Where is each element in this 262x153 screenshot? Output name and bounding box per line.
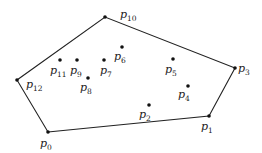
label-p10: p10 [120, 8, 137, 23]
point-p11 [58, 58, 62, 62]
label-subscript: 12 [33, 84, 43, 93]
point-p5 [171, 57, 175, 61]
label-base: p [114, 50, 121, 63]
label-p3: p3 [238, 62, 250, 77]
label-base: p [178, 88, 185, 101]
label-subscript: 8 [87, 87, 92, 96]
label-subscript: 10 [127, 14, 137, 23]
label-base: p [40, 137, 47, 150]
label-subscript: 11 [57, 70, 67, 79]
label-subscript: 6 [121, 56, 126, 65]
label-base: p [139, 108, 146, 121]
label-p6: p6 [114, 50, 126, 65]
point-p6 [120, 45, 124, 49]
point-p8 [86, 76, 90, 80]
label-p8: p8 [80, 81, 92, 96]
label-subscript: 3 [245, 68, 250, 77]
label-subscript: 1 [208, 126, 213, 135]
label-base: p [100, 64, 107, 77]
point-p10 [103, 15, 107, 19]
label-base: p [80, 81, 87, 94]
label-p5: p5 [165, 63, 177, 78]
label-subscript: 7 [107, 70, 112, 79]
label-base: p [26, 78, 33, 91]
label-base: p [238, 62, 245, 75]
point-p9 [75, 58, 79, 62]
label-base: p [201, 120, 208, 133]
label-subscript: 9 [77, 70, 82, 79]
label-subscript: 2 [146, 114, 151, 123]
label-p11: p11 [50, 64, 67, 79]
point-p7 [102, 58, 106, 62]
label-base: p [165, 63, 172, 76]
label-base: p [120, 8, 127, 21]
label-p2: p2 [139, 108, 151, 123]
point-p1 [207, 114, 211, 118]
point-p12 [15, 78, 19, 82]
label-p9: p9 [70, 64, 82, 79]
label-p12: p12 [26, 78, 43, 93]
label-p1: p1 [201, 120, 213, 135]
label-base: p [70, 64, 77, 77]
label-subscript: 0 [47, 143, 52, 152]
label-base: p [50, 64, 57, 77]
label-subscript: 4 [185, 94, 190, 103]
label-p0: p0 [40, 137, 52, 152]
point-p0 [46, 130, 50, 134]
point-p3 [233, 66, 237, 70]
point-p4 [186, 84, 190, 88]
convex-hull-diagram: p0p1p2p3p4p5p6p7p8p9p10p11p12 [0, 0, 262, 153]
label-p7: p7 [100, 64, 112, 79]
label-subscript: 5 [172, 69, 177, 78]
label-p4: p4 [178, 88, 190, 103]
point-p2 [147, 103, 151, 107]
